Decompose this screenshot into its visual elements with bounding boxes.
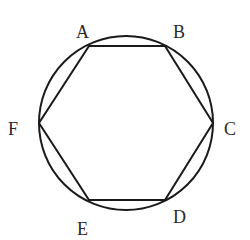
vertex-label-f: F bbox=[8, 119, 18, 139]
vertex-label-e: E bbox=[77, 219, 88, 239]
vertex-label-b: B bbox=[173, 22, 185, 42]
diagram-canvas: A B C D E F bbox=[0, 0, 250, 240]
vertex-label-d: D bbox=[173, 207, 186, 227]
regular-hexagon bbox=[39, 46, 213, 200]
vertex-label-a: A bbox=[76, 22, 89, 42]
hexagon-in-circle-figure: A B C D E F bbox=[0, 0, 250, 240]
vertex-label-c: C bbox=[224, 119, 236, 139]
circumscribed-circle bbox=[39, 36, 213, 210]
